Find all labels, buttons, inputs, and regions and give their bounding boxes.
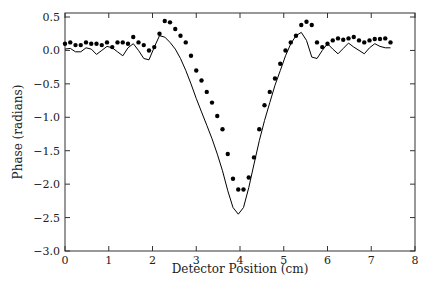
- measured-point: [84, 40, 88, 44]
- x-axis-ticks: 012345678: [62, 13, 419, 267]
- y-tick-label: −0.5: [33, 78, 60, 91]
- y-tick-label: −3.0: [33, 245, 60, 258]
- measured-point: [352, 35, 356, 39]
- measured-point: [115, 40, 119, 44]
- measured-point: [63, 42, 67, 46]
- measured-point: [388, 40, 392, 44]
- measured-point: [163, 19, 167, 23]
- measured-point: [184, 40, 188, 44]
- measured-point: [89, 42, 93, 46]
- measured-point: [94, 42, 98, 46]
- measured-point: [383, 36, 387, 40]
- y-tick-label: −1.0: [33, 111, 60, 124]
- measured-point: [121, 40, 125, 44]
- measured-point: [231, 177, 235, 181]
- measured-point: [194, 68, 198, 72]
- y-axis-title: Phase (radians): [11, 85, 25, 180]
- y-tick-label: 0.0: [43, 44, 61, 57]
- x-tick-label: 8: [412, 254, 419, 267]
- measured-point: [373, 37, 377, 41]
- measured-point: [299, 23, 303, 27]
- measured-point: [241, 187, 245, 191]
- plot-frame: [65, 13, 415, 251]
- measured-point: [336, 36, 340, 40]
- measured-point: [236, 187, 240, 191]
- y-tick-label: 0.5: [43, 11, 61, 24]
- measured-point: [210, 100, 214, 104]
- measured-point: [378, 37, 382, 41]
- plot-area: [63, 19, 393, 214]
- measured-point: [73, 43, 77, 47]
- measured-point: [220, 127, 224, 131]
- x-axis-title: Detector Position (cm): [172, 262, 309, 276]
- measured-point: [205, 90, 209, 94]
- measured-point: [310, 23, 314, 27]
- measured-point: [131, 35, 135, 39]
- model-line: [65, 32, 391, 214]
- measured-point: [262, 103, 266, 107]
- measured-point: [362, 40, 366, 44]
- plot-border: [65, 13, 415, 251]
- measured-point: [268, 90, 272, 94]
- measured-point: [341, 38, 345, 42]
- measured-point: [68, 40, 72, 44]
- x-tick-label: 0: [62, 254, 69, 267]
- phase-chart: 012345678 0.50.0−0.5−1.0−1.5−2.0−2.5−3.0…: [0, 0, 428, 283]
- measured-point: [367, 38, 371, 42]
- measured-point: [105, 40, 109, 44]
- measured-point: [79, 43, 83, 47]
- measured-point: [199, 78, 203, 82]
- measured-point: [136, 40, 140, 44]
- y-tick-label: −1.5: [33, 145, 60, 158]
- measured-point: [173, 27, 177, 31]
- measured-point: [304, 19, 308, 23]
- measured-point: [126, 42, 130, 46]
- measured-point: [357, 38, 361, 42]
- measured-point: [346, 36, 350, 40]
- measured-point: [257, 127, 261, 131]
- measured-point: [331, 38, 335, 42]
- measured-point: [100, 43, 104, 47]
- measured-point: [142, 43, 146, 47]
- measured-point: [189, 54, 193, 58]
- y-axis-ticks: 0.50.0−0.5−1.0−1.5−2.0−2.5−3.0: [33, 11, 415, 258]
- measured-point: [315, 40, 319, 44]
- measured-point: [168, 20, 172, 24]
- x-tick-label: 2: [149, 254, 156, 267]
- x-tick-label: 7: [368, 254, 375, 267]
- measured-point: [178, 34, 182, 38]
- measured-point: [147, 48, 151, 52]
- y-tick-label: −2.5: [33, 212, 60, 225]
- x-tick-label: 1: [105, 254, 112, 267]
- measured-point: [215, 114, 219, 118]
- y-tick-label: −2.0: [33, 178, 60, 191]
- x-tick-label: 6: [324, 254, 331, 267]
- measured-point: [226, 152, 230, 156]
